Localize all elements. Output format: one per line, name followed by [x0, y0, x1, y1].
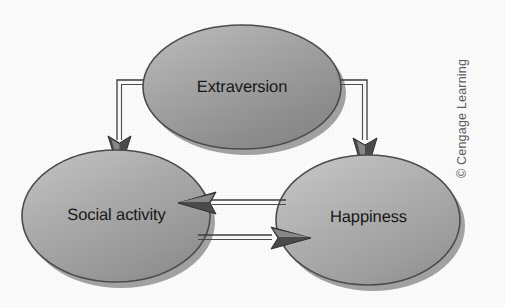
node-label-social-activity: Social activity	[22, 206, 211, 225]
diagram-canvas	[0, 0, 505, 307]
diagram-figure: Extraversion Social activity Happiness ©…	[0, 0, 505, 307]
node-label-happiness: Happiness	[276, 208, 461, 227]
copyright-attribution: © Cengage Learning	[455, 8, 469, 178]
node-label-extraversion: Extraversion	[143, 78, 341, 97]
